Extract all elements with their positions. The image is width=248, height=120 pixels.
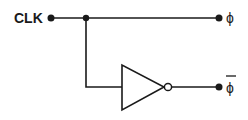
clock-phase-splitter-diagram: CLK ϕ ϕ	[0, 0, 248, 120]
inverter-bubble	[164, 83, 171, 90]
branch-wire	[86, 18, 122, 87]
clk-label: CLK	[14, 10, 43, 26]
phi-terminal-dot	[216, 15, 223, 22]
inverter-triangle	[122, 65, 164, 110]
phi-label: ϕ	[226, 10, 234, 26]
phi-bar-terminal-dot	[216, 84, 223, 91]
phi-bar-label: ϕ	[226, 80, 234, 96]
